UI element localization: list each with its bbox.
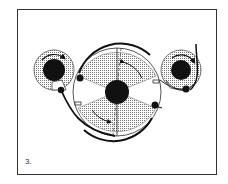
drum-hub-icon xyxy=(105,80,129,104)
supply-reel xyxy=(34,50,74,93)
take-up-reel xyxy=(160,44,201,93)
center-drum xyxy=(73,44,162,141)
reel-hub-icon xyxy=(43,59,65,81)
figure-label: 3. xyxy=(25,157,32,166)
reel-diagram xyxy=(0,0,228,184)
reel-hub-icon xyxy=(171,60,191,80)
